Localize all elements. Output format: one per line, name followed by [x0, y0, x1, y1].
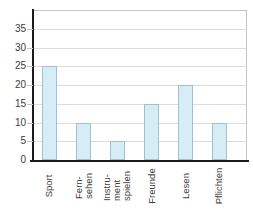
y-tick-label: 5 [0, 135, 26, 147]
gridline [33, 104, 247, 105]
bar [76, 123, 91, 161]
bar [42, 66, 57, 160]
x-axis-line [30, 160, 249, 162]
x-category-label-text: Fern- sehen [73, 173, 93, 199]
bar-chart: 05101520253035SportFern- sehenInstru- me… [0, 0, 253, 210]
y-axis-tick [27, 141, 33, 142]
y-tick-label: 15 [0, 98, 26, 110]
x-category-label-text: Pflichten [215, 168, 225, 204]
bar [144, 104, 159, 160]
x-category-label-text: Freunde [146, 168, 156, 203]
y-axis-tick [27, 48, 33, 49]
plot-area [33, 10, 247, 160]
y-tick-label: 10 [0, 117, 26, 129]
bar [212, 123, 227, 161]
y-axis-tick [27, 123, 33, 124]
y-axis-tick [27, 85, 33, 86]
x-category-label-text: Sport [45, 175, 55, 198]
y-axis-tick [27, 66, 33, 67]
x-category-label: Pflichten [196, 163, 244, 209]
y-tick-label: 25 [0, 60, 26, 72]
y-tick-label: 35 [0, 23, 26, 35]
gridline [33, 29, 247, 30]
gridline [33, 66, 247, 67]
gridline [33, 85, 247, 86]
y-axis-tick [27, 104, 33, 105]
plot-frame-top [33, 10, 247, 11]
y-tick-label: 20 [0, 79, 26, 91]
y-axis-tick [27, 29, 33, 30]
gridline [33, 48, 247, 49]
x-category-label-text: Lesen [180, 173, 190, 199]
y-tick-label: 30 [0, 42, 26, 54]
bar [110, 141, 125, 160]
plot-frame-right [246, 10, 247, 160]
bar [178, 85, 193, 160]
y-tick-label: 0 [0, 154, 26, 166]
